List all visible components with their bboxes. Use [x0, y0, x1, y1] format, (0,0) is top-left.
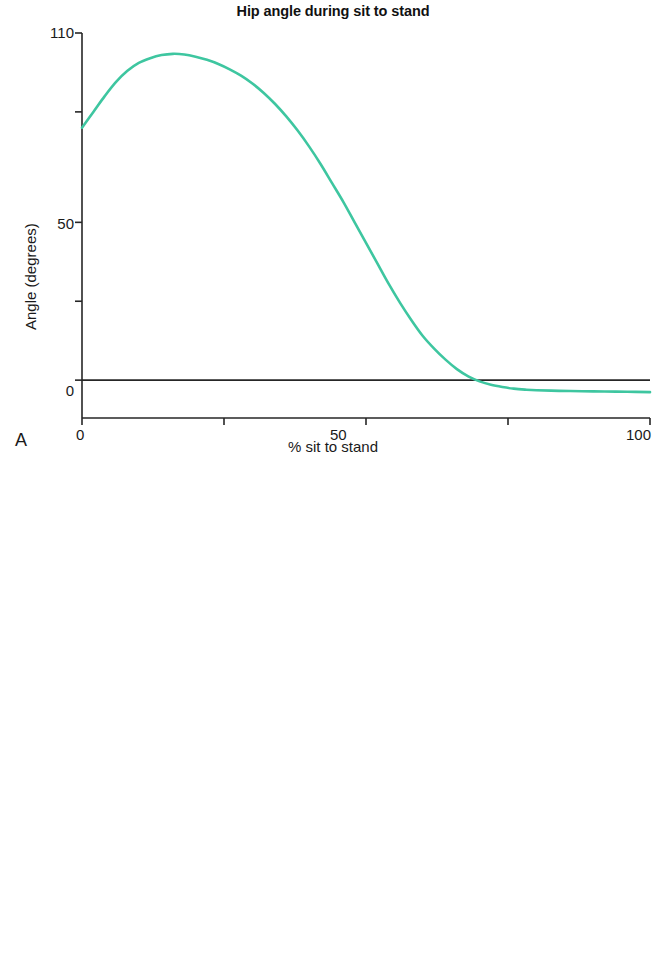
panel-b: Hip angular velocity during sit to stand… [0, 480, 666, 968]
panel-a: Hip angle during sit to stand Angle (deg… [0, 0, 666, 480]
figure-container: Hip angle during sit to stand Angle (deg… [0, 0, 666, 968]
panel-a-plot [0, 0, 666, 480]
panel-b-plot [0, 960, 666, 968]
